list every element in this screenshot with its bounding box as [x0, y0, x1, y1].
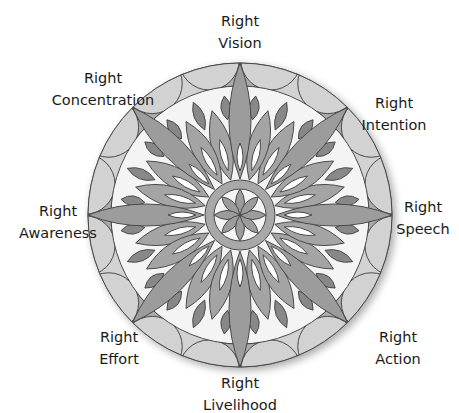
label-right-effort: RightEffort	[99, 326, 139, 370]
label-right-concentration: RightConcentration	[52, 67, 155, 111]
label-right-action: RightAction	[375, 326, 420, 370]
label-right-vision: RightVision	[218, 10, 261, 54]
center-hub	[205, 180, 275, 250]
label-right-awareness: RightAwareness	[19, 200, 97, 244]
label-right-speech: RightSpeech	[396, 196, 449, 240]
label-right-intention: RightIntention	[361, 92, 426, 136]
label-right-livelihood: RightLivelihood	[203, 372, 277, 413]
